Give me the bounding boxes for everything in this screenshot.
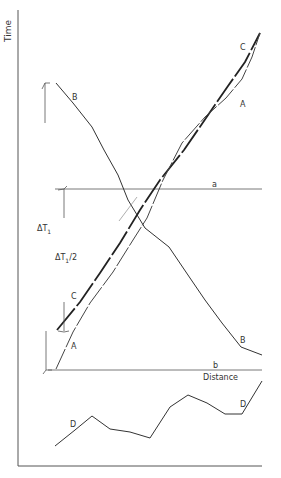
curve-d xyxy=(55,381,262,446)
distance-axis-label: Distance xyxy=(203,373,238,382)
curve-c xyxy=(57,33,260,330)
curve-d-right-label: D xyxy=(240,400,246,409)
arrow-head-bottom xyxy=(43,370,52,374)
curve-d-left-label: D xyxy=(70,420,76,429)
line-b-label: b xyxy=(213,361,218,370)
arrow-head-top xyxy=(42,83,50,89)
curve-b-top-label: B xyxy=(72,93,78,102)
line-a-label: a xyxy=(212,180,217,189)
time-distance-diagram: Time a b Distance B B C C A A ΔT1 ΔT1/2 … xyxy=(0,0,281,478)
curve-c-bottom-label: C xyxy=(71,292,77,301)
arrow-head-c xyxy=(58,331,69,332)
time-axis-label: Time xyxy=(3,20,13,43)
delta-t1-half-label: ΔT1/2 xyxy=(55,253,77,264)
curve-a-top-label: A xyxy=(240,100,246,109)
curve-b-bottom-label: B xyxy=(240,336,246,345)
delta-t1-label: ΔT1 xyxy=(37,224,51,235)
curve-c-top-label: C xyxy=(240,43,246,52)
curve-b xyxy=(56,83,262,355)
curve-a-bottom-label: A xyxy=(71,342,77,351)
